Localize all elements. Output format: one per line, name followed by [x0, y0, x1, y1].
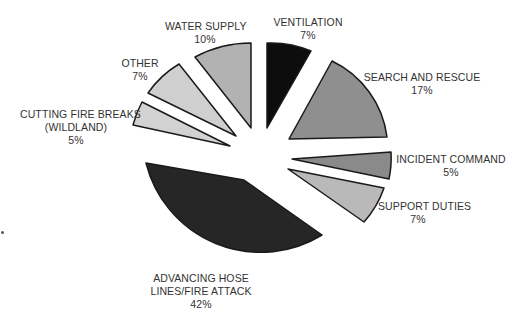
- label-water-supply-name: WATER SUPPLY: [165, 20, 245, 33]
- label-ventilation: VENTILATION 7%: [268, 16, 348, 42]
- label-search-and-rescue-name: SEARCH AND RESCUE: [362, 71, 482, 84]
- label-cutting-fire-breaks-pct: 5%: [20, 134, 132, 147]
- label-incident-command-pct: 5%: [396, 166, 506, 179]
- slice-advancing-hose-lines: [146, 163, 322, 252]
- label-cutting-fire-breaks: CUTTING FIRE BREAKS (WILDLAND) 5%: [20, 108, 132, 147]
- label-cutting-fire-breaks-line1: CUTTING FIRE BREAKS: [20, 108, 132, 121]
- label-support-duties: SUPPORT DUTIES 7%: [378, 200, 458, 226]
- label-other: OTHER 7%: [120, 57, 160, 83]
- label-incident-command-name: INCIDENT COMMAND: [396, 153, 506, 166]
- label-water-supply: WATER SUPPLY 10%: [165, 20, 245, 46]
- label-advancing-hose-lines-line2: LINES/FIRE ATTACK: [146, 285, 256, 298]
- label-other-name: OTHER: [120, 57, 160, 70]
- slice-support-duties: [288, 169, 384, 222]
- label-advancing-hose-lines: ADVANCING HOSE LINES/FIRE ATTACK 42%: [146, 272, 256, 311]
- label-water-supply-pct: 10%: [165, 33, 245, 46]
- label-search-and-rescue-pct: 17%: [362, 84, 482, 97]
- stray-dot: [1, 231, 4, 234]
- label-other-pct: 7%: [120, 70, 160, 83]
- label-ventilation-name: VENTILATION: [268, 16, 348, 29]
- label-cutting-fire-breaks-line2: (WILDLAND): [20, 121, 132, 134]
- label-search-and-rescue: SEARCH AND RESCUE 17%: [362, 71, 482, 97]
- label-support-duties-pct: 7%: [378, 213, 458, 226]
- label-incident-command: INCIDENT COMMAND 5%: [396, 153, 506, 179]
- label-advancing-hose-lines-line1: ADVANCING HOSE: [146, 272, 256, 285]
- label-support-duties-name: SUPPORT DUTIES: [378, 200, 458, 213]
- label-ventilation-pct: 7%: [268, 29, 348, 42]
- label-advancing-hose-lines-pct: 42%: [146, 298, 256, 311]
